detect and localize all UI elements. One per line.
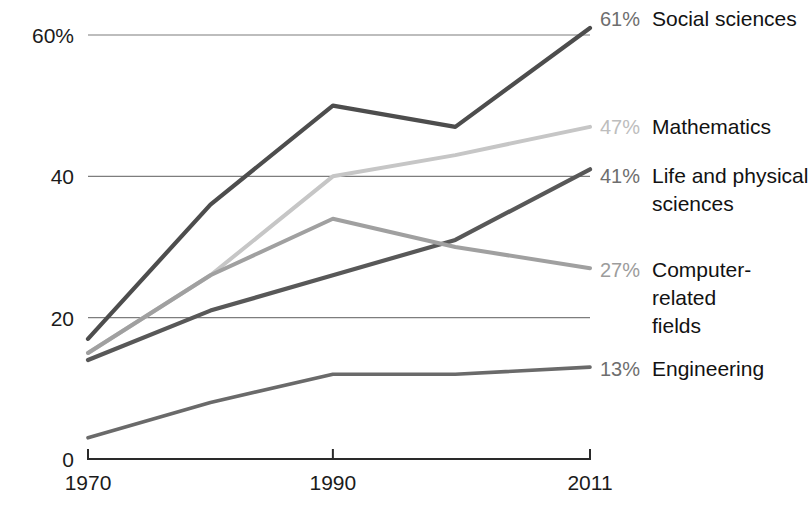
axis-group <box>88 449 590 459</box>
series-label-computer-related-fields: Computer- <box>652 258 751 281</box>
y-axis-tick-labels: 60%40200 <box>32 24 74 471</box>
x-tick-label-1990: 1990 <box>310 471 357 494</box>
line-chart: 60%40200 197019902011 61%Social sciences… <box>0 0 809 518</box>
series-end-value-mathematics: 47% <box>600 116 640 138</box>
series-line-social-sciences <box>88 28 590 339</box>
series-label-mathematics: Mathematics <box>652 115 771 138</box>
series-end-value-life-and-physical-sciences: 41% <box>600 165 640 187</box>
y-tick-label-0: 0 <box>62 448 74 471</box>
series-label-life-and-physical-sciences-line2: sciences <box>652 192 734 215</box>
series-end-value-engineering: 13% <box>600 358 640 380</box>
y-tick-label-20: 20 <box>51 307 74 330</box>
series-label-engineering: Engineering <box>652 357 764 380</box>
series-line-life-and-physical-sciences <box>88 169 590 360</box>
series-label-social-sciences: Social sciences <box>652 7 797 30</box>
series-label-life-and-physical-sciences: Life and physical <box>652 164 808 187</box>
series-label-computer-related-fields-line2: related <box>652 286 716 309</box>
x-tick-label-2011: 2011 <box>567 471 612 494</box>
series-line-computer-related-fields <box>88 219 590 353</box>
series-label-computer-related-fields-line3: fields <box>652 314 701 337</box>
chart-canvas: 60%40200 197019902011 61%Social sciences… <box>0 0 809 518</box>
x-tick-label-1970: 1970 <box>65 471 112 494</box>
x-axis-tick-labels: 197019902011 <box>65 471 613 494</box>
x-axis-line <box>88 449 590 459</box>
series-lines-group <box>88 28 590 438</box>
series-end-value-social-sciences: 61% <box>600 8 640 30</box>
series-line-mathematics <box>88 127 590 353</box>
series-end-labels: 61%Social sciences47%Mathematics41%Life … <box>600 7 808 380</box>
series-line-engineering <box>88 367 590 438</box>
y-tick-label-40: 40 <box>51 165 74 188</box>
series-end-value-computer-related-fields: 27% <box>600 259 640 281</box>
y-tick-label-60: 60% <box>32 24 74 47</box>
